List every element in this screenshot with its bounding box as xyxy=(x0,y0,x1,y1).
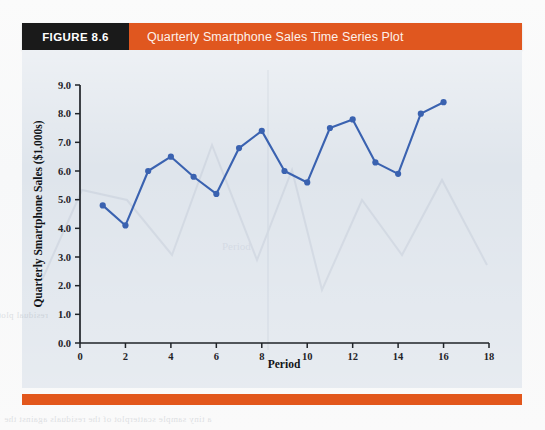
x-tick-label: 14 xyxy=(393,351,404,362)
figure-bottom-rule xyxy=(22,394,522,405)
y-tick-label: 8.0 xyxy=(58,108,71,119)
x-tick-label: 0 xyxy=(77,351,82,362)
data-point-marker xyxy=(191,174,197,180)
time-series-chart: 0.01.02.03.04.05.06.07.08.09.0 024681012… xyxy=(22,50,522,388)
figure-title: Quarterly Smartphone Sales Time Series P… xyxy=(129,23,522,50)
y-axis-title: Quarterly Smartphone Sales ($1,000s) xyxy=(32,120,45,307)
data-point-marker xyxy=(304,179,310,185)
figure-page: FIGURE 8.6 Quarterly Smartphone Sales Ti… xyxy=(0,0,545,430)
figure-header-band: FIGURE 8.6 Quarterly Smartphone Sales Ti… xyxy=(22,23,522,50)
x-tick-label: 10 xyxy=(302,351,313,362)
x-tick-label: 16 xyxy=(438,351,449,362)
data-point-marker xyxy=(327,125,333,131)
y-tick-label: 0.0 xyxy=(58,338,71,349)
x-tick-label: 6 xyxy=(214,351,219,362)
data-point-marker xyxy=(281,168,287,174)
data-point-marker xyxy=(145,168,151,174)
y-tick-label: 4.0 xyxy=(58,223,71,234)
data-point-marker xyxy=(350,116,356,122)
y-axis-ticks: 0.01.02.03.04.05.06.07.08.09.0 xyxy=(58,80,80,349)
x-tick-label: 4 xyxy=(168,351,174,362)
y-tick-label: 1.0 xyxy=(58,309,71,320)
series-line xyxy=(103,102,444,225)
data-point-marker xyxy=(418,111,424,117)
figure-number-tag: FIGURE 8.6 xyxy=(22,23,129,50)
y-tick-label: 9.0 xyxy=(58,80,71,91)
data-point-marker xyxy=(440,99,446,105)
y-tick-label: 2.0 xyxy=(58,280,71,291)
data-point-marker xyxy=(213,191,219,197)
x-tick-label: 18 xyxy=(484,351,495,362)
data-point-marker xyxy=(259,128,265,134)
y-tick-label: 5.0 xyxy=(58,194,71,205)
chart-axes xyxy=(80,85,489,343)
series-markers xyxy=(100,99,447,228)
y-tick-label: 6.0 xyxy=(58,166,71,177)
data-point-marker xyxy=(100,202,106,208)
x-tick-label: 12 xyxy=(347,351,358,362)
figure-body: Period 0.01.02.03.04.05.06.07.08.09.0 02… xyxy=(22,50,522,388)
y-tick-label: 3.0 xyxy=(58,252,71,263)
data-point-marker xyxy=(372,159,378,165)
y-tick-label: 7.0 xyxy=(58,137,71,148)
x-tick-label: 2 xyxy=(123,351,128,362)
data-point-marker xyxy=(236,145,242,151)
data-point-marker xyxy=(168,154,174,160)
data-point-marker xyxy=(122,222,128,228)
data-point-marker xyxy=(395,171,401,177)
x-tick-label: 8 xyxy=(259,351,264,362)
x-axis-title: Period xyxy=(268,358,301,370)
